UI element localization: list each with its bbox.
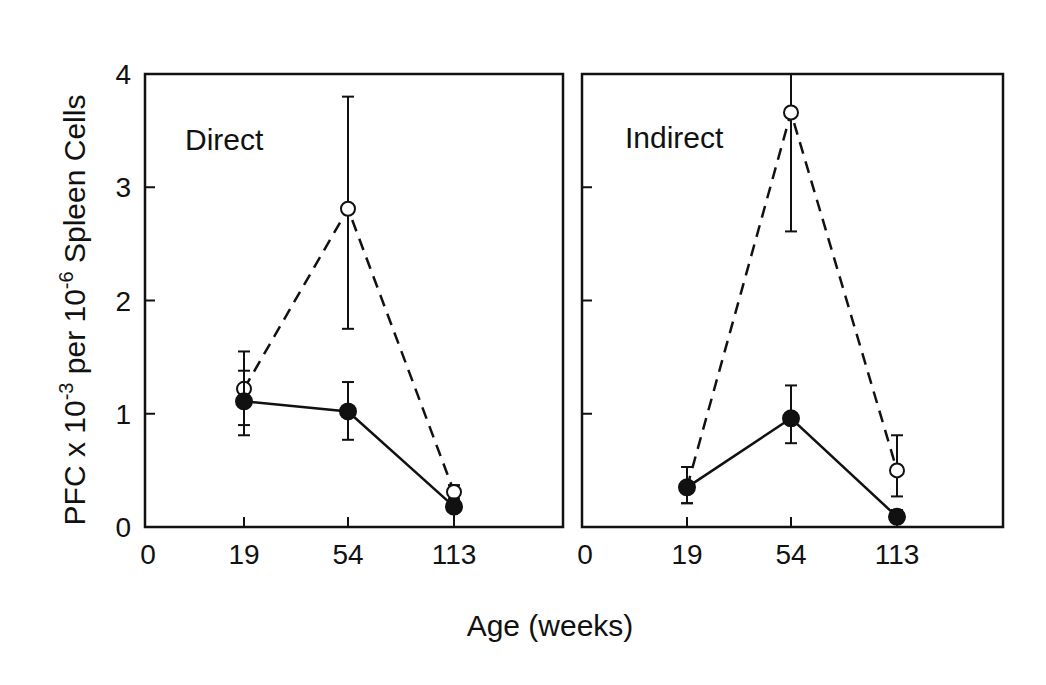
data-point-filled	[236, 393, 252, 409]
y-axis-label-end: Spleen Cells	[58, 95, 91, 272]
data-point-open	[890, 463, 904, 477]
data-point-filled	[679, 479, 695, 495]
series-filled	[679, 385, 905, 527]
y-tick-label: 4	[115, 59, 131, 90]
data-point-filled	[340, 403, 356, 419]
y-tick-label: 0	[115, 512, 131, 543]
x-tick-label: 19	[228, 539, 259, 570]
x-tick-label: 54	[332, 539, 363, 570]
y-axis-label-exp1: -3	[55, 383, 77, 401]
data-point-filled	[889, 509, 905, 525]
series-filled	[236, 371, 462, 527]
panel-label: Direct	[185, 123, 264, 156]
y-axis-label-exp2: -6	[55, 271, 77, 289]
chart: 0123401954113Direct01954113Indirect PFC …	[0, 0, 1046, 685]
y-tick-label: 2	[115, 286, 131, 317]
y-axis-label-mid: per 10	[58, 289, 91, 382]
y-tick-label: 1	[115, 399, 131, 430]
x-tick-label: 19	[671, 539, 702, 570]
panel-indirect: 01954113Indirect	[577, 74, 1003, 570]
x-tick-label: 54	[775, 539, 806, 570]
y-tick-label: 3	[115, 172, 131, 203]
y-axis-label: PFC x 10-3 per 10-6 Spleen Cells	[55, 95, 91, 526]
data-point-open	[447, 485, 461, 499]
data-point-filled	[446, 499, 462, 515]
data-point-filled	[783, 410, 799, 426]
panel-label: Indirect	[625, 121, 724, 154]
panel-direct: 0123401954113Direct	[115, 59, 563, 570]
x-origin-label: 0	[140, 539, 156, 570]
data-point-open	[341, 202, 355, 216]
data-point-open	[784, 106, 798, 120]
x-tick-label: 113	[875, 539, 920, 570]
y-axis-label-main: PFC x 10	[58, 400, 91, 525]
x-origin-label: 0	[577, 539, 593, 570]
x-tick-label: 113	[432, 539, 477, 570]
x-axis-label: Age (weeks)	[467, 609, 634, 642]
